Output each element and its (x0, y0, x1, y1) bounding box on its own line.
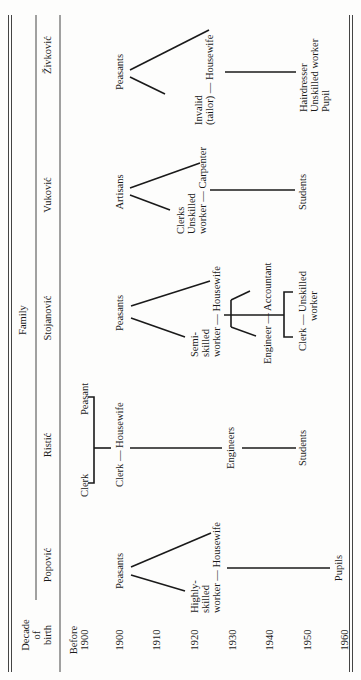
stojanovic-parents: Peasants (114, 283, 125, 343)
decade-1960: 1960 (339, 615, 350, 665)
vukovic-parents: Artisans (114, 162, 125, 222)
vukovic-child: Clerks Unskilled worker — Carpenter (175, 147, 208, 234)
popovic-parents: Peasants (114, 541, 125, 601)
popovic-grandchildren: Pupils (333, 538, 344, 598)
decade-1940: 1940 (264, 615, 275, 665)
decade-1920: 1920 (189, 615, 200, 665)
vukovic-grandchildren: Students (297, 162, 308, 222)
decade-1950: 1950 (302, 615, 313, 665)
decade-1930: 1930 (227, 615, 238, 665)
stojanovic-child: Semi- skilled worker — Housewife (189, 266, 222, 357)
family-name-ristic: Ristić (42, 410, 53, 480)
family-occupation-diagram: Decade of birth Family Popović Ristić St… (0, 0, 361, 680)
zivkovic-grandchildren: Hairdresser Unskilled worker Pupil (298, 39, 331, 112)
decade-1900: 1900 (114, 615, 125, 665)
zivkovic-branch-left (130, 77, 165, 94)
stojanovic-fork-right (231, 291, 250, 300)
ristic-grandparent-right: Peasant (79, 383, 90, 415)
family-header: Family (17, 290, 28, 350)
decade-1910: 1910 (151, 615, 162, 665)
family-name-zivkovic: Živković (42, 20, 53, 90)
popovic-branch-left (131, 575, 185, 591)
stojanovic-fork-left (231, 327, 256, 336)
family-name-popovic: Popović (42, 530, 53, 600)
decade-before-1900: Before 1900 (68, 615, 90, 665)
stojanovic-bracket (284, 292, 293, 337)
family-name-vukovic: Vuković (42, 160, 53, 230)
popovic-child: Highly- skilled worker — Housewife (189, 522, 222, 613)
ristic-children: Engineers (225, 418, 236, 478)
stojanovic-child-couple-2: Clerk — Unskilled worker (297, 271, 319, 351)
ristic-grandparent-left: Clerk (79, 474, 90, 497)
decade-of-birth-header: Decade of birth (20, 605, 53, 665)
stojanovic-child-couple-1: Engineer — Accountant (262, 263, 273, 364)
ristic-grandchildren: Students (297, 418, 308, 478)
stojanovic-branch-left (131, 318, 185, 337)
family-name-stojanovic: Stojanović (42, 278, 53, 358)
ristic-couple: Clerk — Housewife (114, 402, 125, 487)
zivkovic-parents: Peasants (114, 42, 125, 102)
vukovic-branch-left (130, 195, 170, 210)
zivkovic-child: Invalid (tailor) — Housewife (193, 35, 215, 125)
